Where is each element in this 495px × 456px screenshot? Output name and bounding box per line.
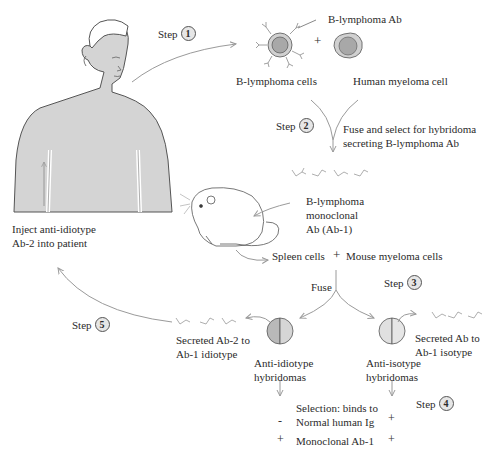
inject-label-line2: Ab-2 into patient [12, 236, 87, 250]
selection-row-monoclonal: Monoclonal Ab-1 [296, 434, 374, 448]
step-4: Step 4 [416, 396, 454, 411]
anti-isotype-monoclonal-result: + [388, 432, 395, 447]
inject-label-line1: Inject anti-idiotype [12, 222, 96, 236]
secreted-ab2-label-line2: Ab-1 idiotype [176, 347, 237, 361]
step-3: Step 3 [384, 275, 422, 290]
human-myeloma-cell [334, 33, 362, 58]
mouse [180, 188, 279, 246]
secreted-ab-isotype-label-line1: Secreted Ab to [415, 331, 480, 345]
fuse-label: Fuse [311, 280, 332, 294]
spleen-cells-label: Spleen cells [272, 249, 325, 263]
anti-idiotype-label-line2: hybridomas [254, 370, 306, 384]
step-label: Step [416, 398, 436, 410]
step-number-badge: 1 [181, 26, 196, 41]
ab1-antibodies [292, 168, 368, 176]
b-lymphoma-cells-label: B-lymphoma cells [236, 74, 317, 88]
plus-sign: + [333, 248, 340, 262]
human-myeloma-cell-label: Human myeloma cell [353, 74, 448, 88]
anti-idiotype-monoclonal-result: + [277, 432, 284, 447]
anti-isotype-normal-ig-result: + [388, 411, 395, 426]
anti-isotype-hybridoma [379, 318, 405, 344]
step-5: Step 5 [72, 317, 110, 332]
step-label: Step [158, 28, 178, 40]
anti-idiotype-normal-ig-result: - [278, 414, 282, 429]
selection-row-normal-ig: Normal human Ig [296, 415, 374, 429]
plus-sign: + [314, 34, 321, 48]
step-number-badge: 4 [439, 396, 454, 411]
anti-isotype-label-line2: hybridomas [366, 370, 418, 384]
step-number-badge: 5 [95, 317, 110, 332]
step-2: Step 2 [276, 118, 314, 133]
mouse-myeloma-label: Mouse myeloma cells [346, 249, 443, 263]
step-number-badge: 2 [299, 118, 314, 133]
step-1: Step 1 [158, 26, 196, 41]
anti-isotype-label-line1: Anti-isotype [366, 356, 421, 370]
anti-idiotype-hybridoma [267, 318, 293, 344]
step-label: Step [276, 120, 296, 132]
b-lymphoma-cell [256, 20, 316, 68]
step-number-badge: 3 [407, 275, 422, 290]
fuse-select-label-line2: secreting B-lymphoma Ab [343, 136, 459, 150]
anti-idiotype-label-line1: Anti-idiotype [254, 356, 313, 370]
secreted-ab2-label-line1: Secreted Ab-2 to [176, 333, 250, 347]
secreted-ab-isotype-label-line2: Ab-1 isotype [415, 345, 472, 359]
monoclonal-ab-label-line1: B-lymphoma [306, 194, 364, 208]
monoclonal-ab-label-line3: Ab (Ab-1) [306, 222, 352, 236]
selection-label: Selection: binds to [296, 401, 378, 415]
step-label: Step [384, 277, 404, 289]
b-lymphoma-ab-label: B-lymphoma Ab [328, 12, 402, 26]
fuse-select-label-line1: Fuse and select for hybridoma [343, 122, 476, 136]
monoclonal-ab-label-line2: monoclonal [306, 208, 358, 222]
step-label: Step [72, 319, 92, 331]
patient-figure [14, 20, 172, 212]
